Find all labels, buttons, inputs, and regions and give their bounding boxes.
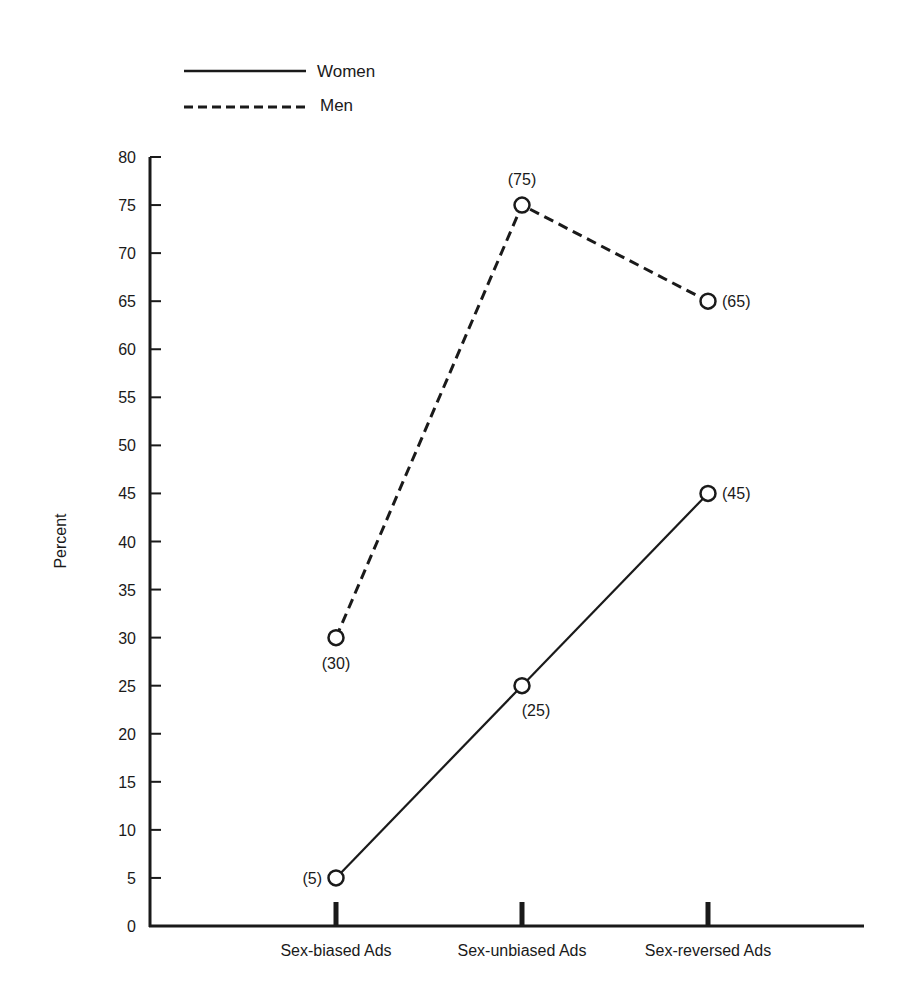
legend: Women Men	[184, 62, 375, 115]
data-point-marker-icon	[329, 630, 344, 645]
y-tick-label: 40	[118, 534, 136, 551]
legend-label-men: Men	[320, 96, 353, 115]
data-point-label: (45)	[722, 485, 750, 502]
legend-label-women: Women	[317, 62, 375, 81]
series-men: (30)(75)(65)	[322, 171, 751, 672]
line-chart: Women Men Percent 0510152025303540455055…	[0, 0, 908, 996]
y-tick-label: 5	[127, 870, 136, 887]
x-tick	[520, 902, 525, 926]
data-point-marker-icon	[515, 678, 530, 693]
y-tick-label: 15	[118, 774, 136, 791]
y-tick-label: 10	[118, 822, 136, 839]
data-point-label: (65)	[722, 293, 750, 310]
y-tick-label: 80	[118, 149, 136, 166]
y-tick-label: 35	[118, 582, 136, 599]
data-point-marker-icon	[701, 486, 716, 501]
x-tick-label: Sex-biased Ads	[280, 942, 391, 959]
series-women: (5)(25)(45)	[302, 485, 750, 887]
y-axis-label: Percent	[52, 513, 69, 569]
x-tick	[706, 902, 711, 926]
y-tick-label: 45	[118, 485, 136, 502]
axes	[149, 157, 864, 927]
y-tick-label: 70	[118, 245, 136, 262]
y-tick-label: 65	[118, 293, 136, 310]
data-point-label: (25)	[522, 702, 550, 719]
data-point-label: (75)	[508, 171, 536, 188]
legend-item-women: Women	[184, 62, 375, 81]
data-point-marker-icon	[701, 294, 716, 309]
y-tick-label: 0	[127, 918, 136, 935]
series-line-men	[336, 205, 708, 638]
x-tick-label: Sex-unbiased Ads	[458, 942, 587, 959]
data-point-label: (30)	[322, 655, 350, 672]
y-tick-label: 20	[118, 726, 136, 743]
y-tick-label: 75	[118, 197, 136, 214]
y-tick-label: 60	[118, 341, 136, 358]
legend-item-men: Men	[184, 96, 353, 115]
x-tick-label: Sex-reversed Ads	[645, 942, 771, 959]
y-tick-label: 25	[118, 678, 136, 695]
data-point-marker-icon	[515, 198, 530, 213]
data-point-label: (5)	[302, 870, 322, 887]
y-tick-label: 55	[118, 389, 136, 406]
y-axis-ticks: 05101520253035404550556065707580	[118, 149, 161, 935]
y-tick-label: 30	[118, 630, 136, 647]
series-group: (5)(25)(45)(30)(75)(65)	[302, 171, 750, 887]
y-tick-label: 50	[118, 437, 136, 454]
data-point-marker-icon	[329, 870, 344, 885]
x-axis-ticks: Sex-biased AdsSex-unbiased AdsSex-revers…	[280, 902, 771, 959]
x-tick	[334, 902, 339, 926]
